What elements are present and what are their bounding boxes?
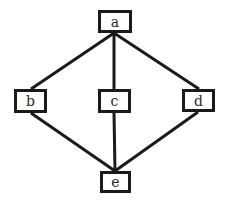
edge-c-e (114, 113, 115, 171)
node-a-label: a (111, 15, 119, 29)
node-d: d (182, 89, 215, 112)
diagram-canvas: a b c d e (0, 0, 225, 205)
edge-a-d (114, 33, 199, 89)
node-b-label: b (26, 94, 35, 108)
edge-a-b (31, 33, 114, 89)
node-e-label: e (111, 175, 119, 189)
edge-b-e (31, 113, 115, 171)
edge-d-e (115, 112, 198, 171)
node-c: c (98, 89, 131, 113)
node-a: a (98, 10, 132, 33)
node-c-label: c (111, 94, 119, 108)
node-e: e (100, 171, 131, 193)
node-b: b (14, 89, 47, 113)
node-d-label: d (194, 94, 203, 108)
